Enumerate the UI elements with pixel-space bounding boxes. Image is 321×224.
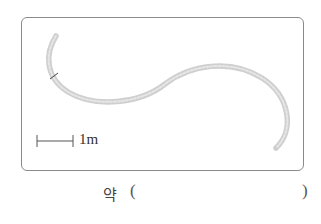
answer-close-paren: ) bbox=[302, 181, 308, 201]
scale-bar-icon bbox=[37, 135, 73, 147]
answer-open-paren: ( bbox=[130, 181, 136, 201]
scale-bar-label: 1m bbox=[79, 131, 98, 148]
answer-input[interactable] bbox=[140, 183, 302, 205]
answer-prefix: 약 bbox=[103, 183, 117, 204]
